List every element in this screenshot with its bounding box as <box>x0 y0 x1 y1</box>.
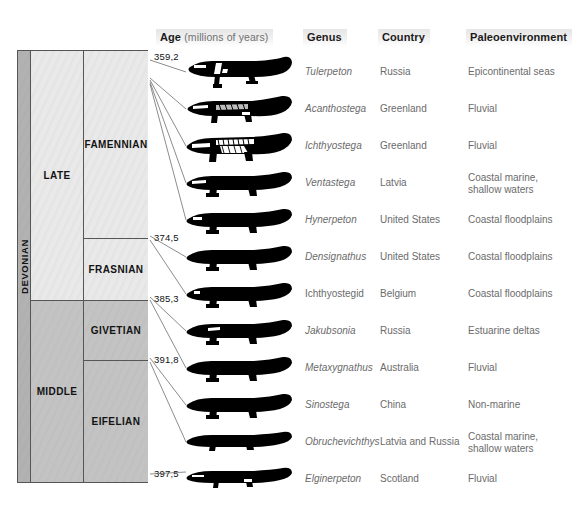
paleoenvironment-9: Non-marine <box>468 399 520 411</box>
paleoenvironment-0: Epicontinental seas <box>468 66 555 78</box>
country-5: United States <box>380 251 440 263</box>
tetrapod-silhouette-9 <box>186 393 294 421</box>
genus-7: Jakubsonia <box>305 325 356 337</box>
country-6: Belgium <box>380 288 416 300</box>
tetrapod-silhouette-3 <box>186 171 294 199</box>
genus-6: Ichthyostegid <box>305 288 364 300</box>
country-1: Greenland <box>380 103 427 115</box>
genus-1: Acanthostega <box>305 103 366 115</box>
tetrapod-silhouette-2 <box>186 132 294 164</box>
country-8: Australia <box>380 362 419 374</box>
tetrapod-silhouette-0 <box>186 56 294 90</box>
tetrapod-silhouette-11 <box>186 467 294 491</box>
genus-4: Hynerpeton <box>305 214 357 226</box>
paleoenvironment-3: Coastal marine, shallow waters <box>468 172 538 195</box>
tetrapod-silhouette-7 <box>186 319 294 347</box>
devonian-tetrapod-figure: Age (millions of years) Genus Country Pa… <box>0 0 582 514</box>
paleoenvironment-10: Coastal marine, shallow waters <box>468 431 538 454</box>
tetrapod-silhouette-5 <box>186 245 294 273</box>
country-4: United States <box>380 214 440 226</box>
country-0: Russia <box>380 66 411 78</box>
tetrapod-silhouette-10 <box>186 430 294 454</box>
paleoenvironment-8: Fluvial <box>468 362 497 374</box>
paleoenvironment-11: Fluvial <box>468 473 497 485</box>
paleoenvironment-5: Coastal floodplains <box>468 251 553 263</box>
genus-8: Metaxygnathus <box>305 362 373 374</box>
country-2: Greenland <box>380 140 427 152</box>
genus-10: Obruchevichthys <box>305 436 379 448</box>
tetrapod-silhouette-1 <box>186 95 294 125</box>
paleoenvironment-7: Estuarine deltas <box>468 325 540 337</box>
genus-2: Ichthyostega <box>305 140 362 152</box>
genus-9: Sinostega <box>305 399 349 411</box>
country-10: Latvia and Russia <box>380 436 460 448</box>
genus-5: Densignathus <box>305 251 366 263</box>
genus-3: Ventastega <box>305 177 355 189</box>
genus-11: Elginerpeton <box>305 473 361 485</box>
genus-0: Tulerpeton <box>305 66 352 78</box>
tetrapod-silhouette-8 <box>186 356 294 384</box>
country-3: Latvia <box>380 177 407 189</box>
country-11: Scotland <box>380 473 419 485</box>
paleoenvironment-6: Coastal floodplains <box>468 288 553 300</box>
country-9: China <box>380 399 406 411</box>
tetrapod-silhouette-6 <box>186 282 294 310</box>
tetrapod-silhouette-4 <box>186 208 294 236</box>
paleoenvironment-2: Fluvial <box>468 140 497 152</box>
paleoenvironment-1: Fluvial <box>468 103 497 115</box>
country-7: Russia <box>380 325 411 337</box>
paleoenvironment-4: Coastal floodplains <box>468 214 553 226</box>
